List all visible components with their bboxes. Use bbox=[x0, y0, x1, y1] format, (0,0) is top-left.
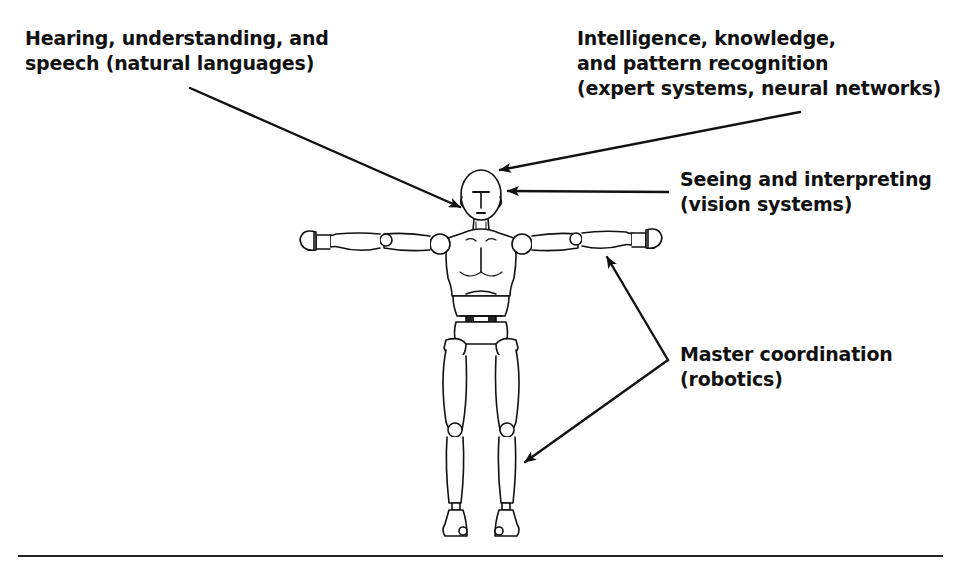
label-intelligence-line-3: (expert systems, neural networks) bbox=[577, 76, 941, 101]
label-intelligence-line-1: Intelligence, knowledge, bbox=[577, 26, 941, 51]
arrow-seeing bbox=[508, 191, 668, 192]
left-shoulder-joint bbox=[430, 234, 450, 254]
label-master-line-1: Master coordination bbox=[680, 342, 893, 367]
right-leg bbox=[495, 350, 519, 536]
torso bbox=[446, 229, 516, 344]
label-master-coordination: Master coordination (robotics) bbox=[680, 342, 893, 392]
label-seeing: Seeing and interpreting (vision systems) bbox=[680, 167, 932, 217]
arrow-hearing bbox=[190, 88, 460, 207]
arrow-intelligence bbox=[500, 112, 800, 170]
label-seeing-line-2: (vision systems) bbox=[680, 192, 932, 217]
label-hearing: Hearing, understanding, and speech (natu… bbox=[25, 26, 329, 76]
label-seeing-line-1: Seeing and interpreting bbox=[680, 167, 932, 192]
right-arm bbox=[532, 229, 662, 251]
arrow-master-leg bbox=[525, 360, 668, 462]
label-master-line-2: (robotics) bbox=[680, 367, 893, 392]
arrow-master-arm bbox=[607, 257, 668, 360]
head bbox=[461, 170, 502, 231]
label-intelligence-line-2: and pattern recognition bbox=[577, 51, 941, 76]
left-arm bbox=[300, 231, 430, 251]
bottom-divider bbox=[18, 555, 943, 557]
right-shoulder-joint bbox=[512, 234, 532, 254]
left-leg bbox=[443, 350, 467, 536]
label-hearing-line-1: Hearing, understanding, and bbox=[25, 26, 329, 51]
label-intelligence: Intelligence, knowledge, and pattern rec… bbox=[577, 26, 941, 101]
label-hearing-line-2: speech (natural languages) bbox=[25, 51, 329, 76]
